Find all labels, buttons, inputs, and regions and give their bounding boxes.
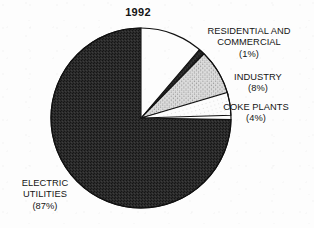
slice-label-line1: COKE PLANTS <box>200 102 312 113</box>
slice-label-coke-plants: COKE PLANTS (4%) <box>200 102 312 125</box>
slice-label-value: (1%) <box>186 49 312 60</box>
slice-label-line2: UTILITIES <box>4 189 86 200</box>
slice-label-residential-commercial: RESIDENTIAL AND COMMERCIAL (1%) <box>186 26 312 60</box>
slice-label-value: (87%) <box>4 201 86 212</box>
slice-label-industry: INDUSTRY (8%) <box>206 72 310 95</box>
slice-label-line2: COMMERCIAL <box>186 37 312 48</box>
slice-label-line1: RESIDENTIAL AND <box>186 26 312 37</box>
slice-label-line1: INDUSTRY <box>206 72 310 83</box>
pie-chart-figure: 1992 <box>0 0 314 228</box>
slice-label-value: (4%) <box>200 113 312 124</box>
slice-label-electric-utilities: ELECTRIC UTILITIES (87%) <box>4 178 86 212</box>
slice-label-value: (8%) <box>206 83 310 94</box>
slice-label-line1: ELECTRIC <box>4 178 86 189</box>
